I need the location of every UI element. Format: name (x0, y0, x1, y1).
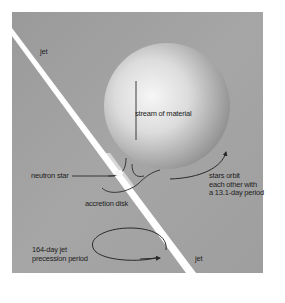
diagram-canvas: jet jet stream of material neutron star … (0, 0, 285, 303)
label-neutron-star: neutron star (31, 172, 69, 181)
label-stream-of-material: stream of material (135, 110, 191, 119)
label-jet-top: jet (40, 48, 47, 57)
neutron-star (115, 170, 123, 176)
label-accretion-disk: accretion disk (85, 200, 128, 209)
label-precession-period: 164-day jet precession period (32, 246, 88, 263)
label-orbit-period: stars orbit each other with a 13.1-day p… (209, 172, 264, 198)
label-jet-bottom: jet (195, 255, 202, 264)
companion-star (104, 43, 230, 169)
